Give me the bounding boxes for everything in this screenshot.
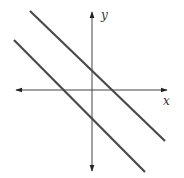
x-axis-label: x bbox=[163, 94, 170, 108]
coordinate-plane bbox=[0, 0, 184, 178]
y-axis-label: y bbox=[101, 8, 108, 22]
